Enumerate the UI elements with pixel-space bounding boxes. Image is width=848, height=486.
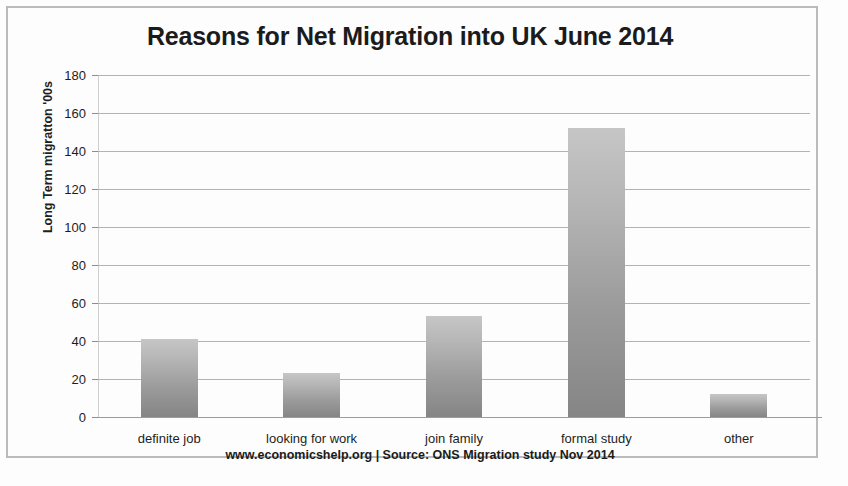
- bar: [141, 339, 198, 417]
- y-tick-mark: [92, 189, 98, 190]
- gridline: [98, 189, 810, 190]
- gridline: [98, 303, 810, 304]
- y-tick-label: 60: [72, 296, 86, 311]
- y-tick-label: 120: [64, 182, 86, 197]
- y-tick-mark: [92, 417, 98, 418]
- x-tick-label: join family: [425, 431, 483, 446]
- source-note: www.economicshelp.org | Source: ONS Migr…: [40, 448, 800, 462]
- bar: [283, 373, 340, 417]
- y-tick-mark: [92, 113, 98, 114]
- chart-title: Reasons for Net Migration into UK June 2…: [40, 22, 780, 51]
- chart-figure: Reasons for Net Migration into UK June 2…: [0, 0, 848, 486]
- y-axis-line: [98, 75, 99, 417]
- y-tick-mark: [92, 341, 98, 342]
- y-tick-label: 160: [64, 106, 86, 121]
- gridline: [98, 227, 810, 228]
- y-tick-mark: [92, 227, 98, 228]
- gridline: [98, 417, 822, 418]
- y-tick-label: 100: [64, 220, 86, 235]
- y-tick-mark: [92, 151, 98, 152]
- y-tick-label: 20: [72, 372, 86, 387]
- y-tick-mark: [92, 303, 98, 304]
- bar: [426, 316, 483, 417]
- gridline: [98, 75, 810, 76]
- gridline: [98, 265, 810, 266]
- y-axis-label: Long Term migratton '00s: [41, 47, 55, 267]
- y-tick-label: 180: [64, 68, 86, 83]
- bar: [710, 394, 767, 417]
- y-tick-label: 80: [72, 258, 86, 273]
- y-tick-label: 40: [72, 334, 86, 349]
- y-tick-label: 140: [64, 144, 86, 159]
- y-tick-mark: [92, 75, 98, 76]
- y-tick-mark: [92, 265, 98, 266]
- x-tick-label: definite job: [138, 431, 201, 446]
- x-tick-label: looking for work: [266, 431, 357, 446]
- x-tick-label: other: [724, 431, 754, 446]
- y-tick-mark: [92, 379, 98, 380]
- x-tick-label: formal study: [561, 431, 632, 446]
- plot-area: 020406080100120140160180 definite jobloo…: [98, 75, 810, 417]
- bar: [568, 128, 625, 417]
- gridline: [98, 151, 810, 152]
- gridline: [98, 113, 810, 114]
- y-tick-label: 0: [79, 410, 86, 425]
